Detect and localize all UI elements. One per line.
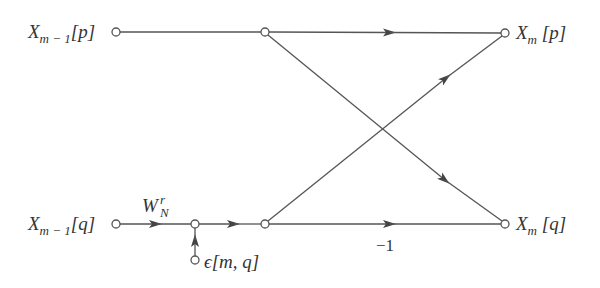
edge-mid-p-to-out-p-a	[269, 32, 390, 33]
input-q-sub: m − 1	[40, 223, 71, 238]
gain-label: −1	[376, 237, 394, 254]
output-label-q: Xm [q]	[516, 214, 566, 237]
node-in-q	[112, 220, 120, 228]
output-p-sub: m	[528, 32, 537, 47]
input-p-base: X	[28, 21, 40, 42]
output-p-index: [p]	[542, 22, 566, 43]
edge-mid-p-to-out-q-b	[445, 180, 502, 221]
twiddle-base: W	[142, 195, 158, 216]
input-p-sub: m − 1	[40, 31, 71, 46]
edge-mid-q-to-out-p-a	[268, 78, 446, 221]
input-label-p: Xm − 1[p]	[28, 22, 95, 45]
node-noise	[191, 256, 199, 264]
input-q-base: X	[28, 213, 40, 234]
node-out-q	[501, 220, 509, 228]
output-q-base: X	[516, 213, 528, 234]
input-label-q: Xm − 1[q]	[28, 214, 95, 237]
node-out-p	[501, 29, 509, 37]
node-in-p	[112, 28, 120, 36]
edge-mid-q-to-out-p-b	[446, 36, 502, 78]
output-q-sub: m	[528, 223, 537, 238]
edge-mid-p-to-out-p-b	[390, 33, 501, 34]
noise-label: ϵ[m, q]	[204, 252, 259, 271]
output-q-index: [q]	[542, 213, 566, 234]
node-mid-p	[261, 28, 269, 36]
output-p-base: X	[516, 22, 528, 43]
edge-mid-p-to-out-q-a	[268, 35, 445, 180]
butterfly-flow-graph: Xm − 1[p] Xm − 1[q] Xm [p] Xm [q] W r N …	[0, 0, 600, 288]
node-sum-q	[191, 220, 199, 228]
input-p-index: [p]	[71, 21, 95, 42]
twiddle-sub: N	[160, 206, 169, 219]
output-label-p: Xm [p]	[516, 23, 566, 46]
input-q-index: [q]	[71, 213, 95, 234]
twiddle-factor-label: W r N	[142, 196, 158, 215]
node-mid-q	[261, 220, 269, 228]
